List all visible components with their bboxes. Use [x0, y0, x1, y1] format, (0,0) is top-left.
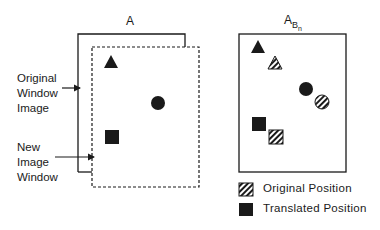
translated-triangle — [251, 40, 265, 53]
square-shape — [105, 130, 119, 144]
translated-square — [252, 117, 266, 131]
translated-circle — [299, 82, 313, 96]
original-window-frame — [78, 34, 185, 172]
right-title-sub: Bn — [292, 20, 302, 30]
circle-shape — [151, 96, 165, 110]
label-original-window-image: Original Window Image — [17, 71, 58, 116]
right-title-main: A — [284, 13, 292, 27]
legend-label-translated: Translated Position — [263, 202, 367, 214]
right-panel-title: ABn — [284, 13, 302, 27]
label-new-image-window: New Image Window — [17, 140, 58, 185]
legend-swatch-solid — [239, 203, 253, 216]
translated-frame — [239, 34, 346, 172]
triangle-shape — [104, 55, 118, 68]
legend-label-original: Original Position — [263, 182, 352, 194]
original-square — [269, 130, 283, 144]
legend-swatch-hatched — [239, 183, 253, 196]
original-triangle — [268, 56, 282, 69]
original-circle — [315, 95, 329, 109]
left-panel-title: A — [126, 14, 134, 28]
